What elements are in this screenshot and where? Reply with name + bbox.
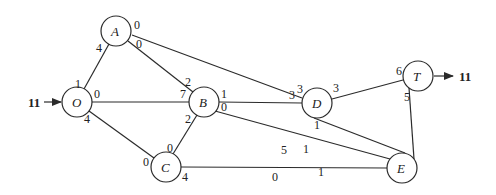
edge-label-O-B-from: 0 [94,87,100,101]
edge-label-A-D-from: 0 [134,18,140,32]
edge-label-O-C-to: 0 [143,155,149,169]
edge-A-D [132,35,302,98]
edge-label-B-D-from: 1 [221,87,227,101]
node-label: T [413,69,421,84]
edge-D-E [314,118,405,153]
sink-flow: 11 [434,69,471,84]
edge-O-C [89,111,154,158]
max-flow-network: 11 11 O A B C D E T 1 4 0 7 [0,0,496,195]
node-label: B [199,95,207,110]
node-label: C [161,160,170,175]
edges [84,35,414,168]
edge-label-A-B-from: 0 [136,37,142,51]
node-T: T [403,61,433,91]
node-B: B [189,87,219,117]
source-flow-label: 11 [28,95,40,110]
edge-label-O-C-from: 4 [84,112,90,126]
node-E: E [387,153,417,183]
edge-label-C-E-from: 4 [182,170,188,184]
edge-label-C-E-to: 0 [272,170,278,184]
edge-label-D-E-to: 1 [303,142,309,156]
edge-D-T [332,80,403,99]
edge-label-O-A-to: 4 [96,41,102,55]
edge-B-D [219,102,302,103]
edge-label-D-T-from: 3 [333,81,339,95]
edge-label-O-B-to: 7 [180,87,186,101]
edge-C-E [181,167,387,168]
node-label: D [311,96,322,111]
source-flow: 11 [28,95,61,110]
node-D: D [302,88,332,118]
edge-label-B-C-to: 0 [167,141,173,155]
node-label: A [110,24,119,39]
node-A: A [101,16,131,46]
edge-label-E-T-from: 1 [318,165,324,179]
sink-flow-label: 11 [459,69,471,84]
edge-label-A-D-to: 3 [297,82,303,96]
edge-label-O-A-from: 1 [75,77,81,91]
edge-label-B-D-to: 3 [289,88,295,102]
edge-label-D-E-from: 1 [314,118,320,132]
edge-label-B-C-from: 2 [185,112,191,126]
edge-label-B-E-to: 5 [281,143,287,157]
node-label: O [72,95,82,110]
edge-label-B-E-from: 0 [221,100,227,114]
edge-label-E-T-to: 5 [404,90,410,104]
edge-label-D-T-to: 6 [396,64,402,78]
node-C: C [151,152,181,182]
edge-label-A-B-to: 2 [185,75,191,89]
node-label: E [396,161,405,176]
